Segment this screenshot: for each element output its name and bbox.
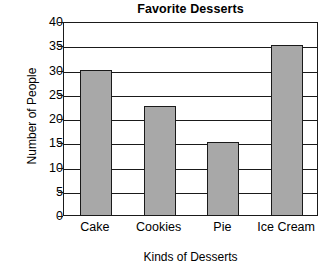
y-tick-label: 35: [3, 40, 63, 52]
y-tick-mark: [58, 143, 63, 144]
y-tick-mark: [58, 216, 63, 217]
bar-pie: [207, 142, 239, 215]
y-tick-label: 25: [3, 89, 63, 101]
x-tick-label: Pie: [191, 220, 255, 234]
x-tick-label: Cake: [63, 220, 127, 234]
x-tick-label: Ice Cream: [254, 220, 318, 234]
y-tick-label: 30: [3, 65, 63, 77]
y-tick-mark: [58, 192, 63, 193]
y-tick-mark: [58, 46, 63, 47]
chart-title: Favorite Desserts: [63, 2, 318, 16]
bar-chart-figure: Favorite Desserts Number of People 05101…: [0, 0, 331, 272]
bar-cookies: [144, 106, 176, 215]
y-tick-mark: [58, 71, 63, 72]
plot-area: [63, 22, 318, 216]
y-tick-mark: [58, 119, 63, 120]
y-tick-mark: [58, 22, 63, 23]
y-tick-mark: [58, 95, 63, 96]
x-tick-label: Cookies: [127, 220, 191, 234]
y-tick-mark: [58, 168, 63, 169]
y-tick-label: 15: [3, 137, 63, 149]
bar-cake: [80, 70, 112, 216]
y-tick-label: 10: [3, 162, 63, 174]
x-axis-title: Kinds of Desserts: [63, 250, 318, 264]
y-tick-label: 20: [3, 113, 63, 125]
bar-ice-cream: [271, 45, 303, 215]
y-tick-label: 40: [3, 16, 63, 28]
y-tick-label: 5: [3, 186, 63, 198]
y-tick-label: 0: [3, 210, 63, 222]
